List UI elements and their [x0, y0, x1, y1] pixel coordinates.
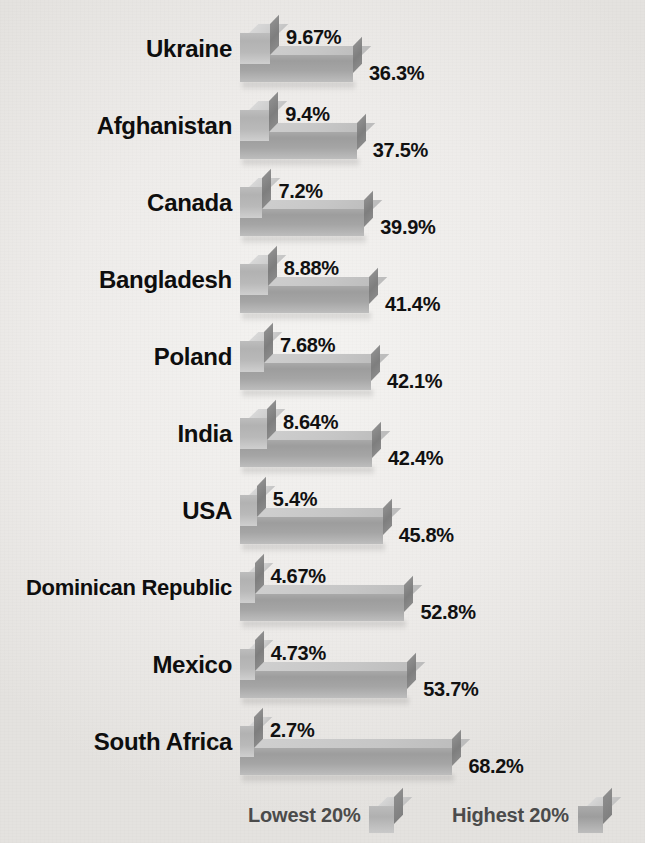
chart-row: Canada39.9%7.2% — [0, 168, 645, 245]
legend-label-lowest: Lowest 20% — [248, 804, 360, 827]
chart-row: Poland42.1%7.68% — [0, 322, 645, 399]
bar-lowest-20[interactable] — [240, 24, 270, 55]
bar-lowest-20[interactable] — [240, 717, 254, 748]
bar-lowest-20[interactable] — [240, 640, 255, 671]
bar-highest-20[interactable] — [240, 585, 404, 612]
value-label-highest-20: 41.4% — [385, 293, 440, 316]
bar-lowest-20[interactable] — [240, 409, 267, 440]
legend-item-highest[interactable]: Highest 20% — [452, 797, 612, 833]
value-label-lowest-20: 8.64% — [283, 411, 338, 434]
value-label-highest-20: 52.8% — [420, 601, 475, 624]
bar-highest-20[interactable] — [240, 662, 407, 689]
legend-swatch-highest — [578, 797, 612, 833]
chart-row: Afghanistan37.5%9.4% — [0, 91, 645, 168]
value-label-highest-20: 53.7% — [423, 678, 478, 701]
value-label-highest-20: 42.1% — [387, 370, 442, 393]
category-label: Dominican Republic — [0, 575, 232, 601]
value-label-highest-20: 36.3% — [369, 62, 424, 85]
category-label: USA — [0, 498, 232, 524]
chart-title: Income in Select Nations — [0, 0, 645, 8]
bar-lowest-20[interactable] — [240, 486, 257, 517]
value-label-lowest-20: 8.88% — [284, 257, 339, 280]
value-label-highest-20: 39.9% — [380, 216, 435, 239]
chart-page: Income in Select Nations Ukraine36.3%9.6… — [0, 0, 645, 843]
bar-lowest-20[interactable] — [240, 563, 255, 594]
category-label: Bangladesh — [0, 267, 232, 293]
value-label-highest-20: 42.4% — [388, 447, 443, 470]
category-label: India — [0, 421, 232, 447]
chart-row: Mexico53.7%4.73% — [0, 630, 645, 707]
chart-legend: Lowest 20% Highest 20% — [0, 793, 645, 843]
value-label-lowest-20: 2.7% — [270, 719, 314, 742]
value-label-lowest-20: 9.4% — [285, 103, 329, 126]
value-label-lowest-20: 7.2% — [278, 180, 322, 203]
value-label-lowest-20: 4.67% — [271, 565, 326, 588]
category-label: Canada — [0, 190, 232, 216]
bar-lowest-20[interactable] — [240, 255, 268, 286]
chart-row: India42.4%8.64% — [0, 399, 645, 476]
bar-lowest-20[interactable] — [240, 332, 264, 363]
value-label-lowest-20: 9.67% — [286, 26, 341, 49]
chart-row: South Africa68.2%2.7% — [0, 707, 645, 784]
category-label: South Africa — [0, 729, 232, 755]
category-label: Poland — [0, 344, 232, 370]
category-label: Mexico — [0, 652, 232, 678]
value-label-highest-20: 45.8% — [399, 524, 454, 547]
bar-lowest-20[interactable] — [240, 178, 262, 209]
chart-row: USA45.8%5.4% — [0, 476, 645, 553]
value-label-lowest-20: 4.73% — [271, 642, 326, 665]
bar-highest-20[interactable] — [240, 739, 452, 766]
value-label-highest-20: 68.2% — [468, 755, 523, 778]
value-label-lowest-20: 5.4% — [273, 488, 317, 511]
value-label-lowest-20: 7.68% — [280, 334, 335, 357]
legend-item-lowest[interactable]: Lowest 20% — [248, 797, 403, 833]
value-label-highest-20: 37.5% — [373, 139, 428, 162]
bar-lowest-20[interactable] — [240, 101, 269, 132]
chart-row: Bangladesh41.4%8.88% — [0, 245, 645, 322]
category-label: Afghanistan — [0, 113, 232, 139]
chart-row: Ukraine36.3%9.67% — [0, 14, 645, 91]
category-label: Ukraine — [0, 36, 232, 62]
legend-label-highest: Highest 20% — [452, 804, 569, 827]
chart-row: Dominican Republic52.8%4.67% — [0, 553, 645, 630]
legend-swatch-lowest — [369, 797, 403, 833]
plot-area: Ukraine36.3%9.67%Afghanistan37.5%9.4%Can… — [0, 14, 645, 784]
